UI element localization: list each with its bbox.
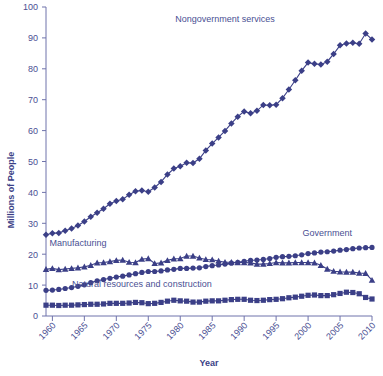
data-point-marker [75, 302, 80, 307]
y-tick-label: 100 [23, 2, 38, 12]
data-point-marker [171, 267, 176, 272]
x-tick-label: 2005 [324, 320, 345, 341]
data-point-marker [293, 295, 298, 300]
data-point-marker [107, 301, 112, 306]
data-point-marker [261, 257, 266, 262]
data-point-marker [222, 298, 227, 303]
data-point-marker [344, 290, 349, 295]
x-tick-label: 2010 [356, 320, 377, 341]
axes [46, 7, 372, 316]
data-point-marker [363, 245, 368, 250]
data-point-marker [133, 300, 138, 305]
y-tick-label: 30 [28, 219, 38, 229]
data-point-marker [267, 297, 272, 302]
data-point-marker [318, 293, 323, 298]
series-annotation-labels: Nongovernment servicesManufacturingGover… [49, 14, 352, 288]
data-point-marker [357, 291, 362, 296]
data-point-marker [126, 272, 131, 277]
data-point-marker [210, 298, 215, 303]
series-line [46, 256, 372, 280]
data-point-marker [299, 252, 304, 257]
data-point-marker [178, 298, 183, 303]
data-point-marker [312, 292, 317, 297]
data-point-marker [369, 245, 374, 250]
data-point-marker [158, 268, 163, 273]
data-point-marker [152, 269, 157, 274]
y-tick-label: 90 [28, 33, 38, 43]
data-point-marker [139, 270, 144, 275]
data-point-marker [331, 249, 336, 254]
data-point-marker [363, 295, 368, 300]
data-point-marker [274, 297, 279, 302]
data-point-marker [56, 287, 61, 292]
series-label-manufacturing: Manufacturing [49, 238, 106, 248]
data-point-marker [337, 248, 342, 253]
x-tick-label: 1970 [100, 320, 121, 341]
data-point-marker [325, 249, 330, 254]
data-point-marker [113, 198, 120, 205]
data-point-marker [356, 41, 363, 48]
x-tick-label: 1980 [164, 320, 185, 341]
data-point-marker [82, 302, 87, 307]
data-point-marker [318, 61, 325, 68]
y-tick-label: 80 [28, 64, 38, 74]
data-point-marker [139, 187, 146, 194]
data-point-marker [94, 210, 101, 217]
data-point-marker [184, 266, 189, 271]
series-nongovernment-services [43, 30, 376, 238]
data-point-marker [49, 230, 56, 237]
data-point-marker [305, 251, 310, 256]
series-label-government: Government [302, 228, 352, 238]
x-tick-label: 1995 [260, 320, 281, 341]
data-point-marker [165, 267, 170, 272]
data-point-marker [267, 256, 272, 261]
data-point-marker [312, 250, 317, 255]
data-point-marker [337, 291, 342, 296]
x-tick-label: 1985 [196, 320, 217, 341]
data-point-marker [114, 301, 119, 306]
data-point-marker [184, 299, 189, 304]
data-point-marker [286, 295, 291, 300]
x-axis-title: Year [199, 358, 219, 368]
y-tick-label: 40 [28, 188, 38, 198]
data-point-marker [165, 299, 170, 304]
data-point-marker [242, 259, 247, 264]
data-point-marker [292, 77, 299, 84]
tick-marks [42, 7, 372, 321]
data-point-marker [146, 301, 151, 306]
data-point-marker [242, 297, 247, 302]
x-tick-label: 1965 [69, 320, 90, 341]
x-axis-tick-labels: 1960196519701975198019851990199520002005… [37, 320, 378, 341]
line-chart: 0102030405060708090100 19601965197019751… [0, 0, 383, 376]
chart-container: 0102030405060708090100 19601965197019751… [0, 0, 383, 376]
data-point-marker [274, 255, 279, 260]
data-point-marker [369, 296, 374, 301]
y-tick-label: 20 [28, 250, 38, 260]
data-point-marker [344, 247, 349, 252]
data-point-marker [43, 303, 48, 308]
y-axis-tick-labels: 0102030405060708090100 [23, 2, 38, 321]
data-point-marker [235, 297, 240, 302]
data-point-marker [56, 230, 63, 237]
data-point-marker [311, 61, 318, 68]
data-point-marker [210, 263, 215, 268]
data-point-marker [146, 269, 151, 274]
data-point-marker [318, 249, 323, 254]
data-point-marker [119, 196, 126, 203]
data-point-marker [350, 290, 355, 295]
data-point-marker [350, 40, 357, 47]
data-point-marker [183, 159, 190, 166]
data-point-marker [235, 260, 240, 265]
data-point-marker [197, 265, 202, 270]
data-point-marker [63, 303, 68, 308]
data-point-marker [49, 265, 56, 271]
data-point-marker [286, 254, 291, 259]
data-point-marker [63, 286, 68, 291]
data-point-marker [158, 300, 163, 305]
data-point-marker [69, 303, 74, 308]
data-point-marker [280, 296, 285, 301]
data-point-marker [266, 102, 273, 109]
data-point-marker [171, 298, 176, 303]
x-tick-label: 1990 [228, 320, 249, 341]
x-tick-label: 1975 [132, 320, 153, 341]
